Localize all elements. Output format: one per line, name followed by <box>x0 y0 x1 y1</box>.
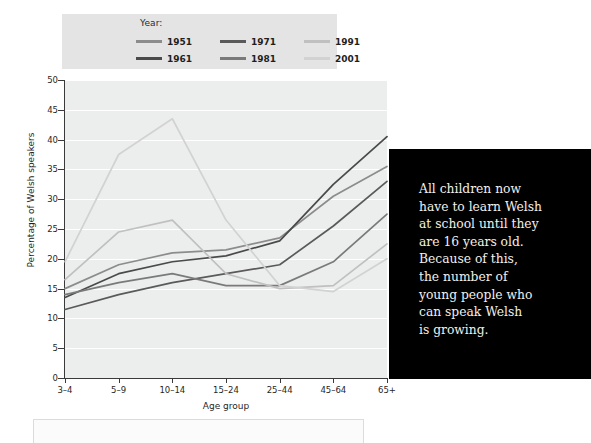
x-tick <box>65 378 66 383</box>
y-tick <box>58 378 65 379</box>
series-lines <box>65 80 387 378</box>
series-line-1951 <box>65 166 387 288</box>
y-tick-label: 35 <box>14 164 58 174</box>
callout-box: All children now have to learn Welsh at … <box>389 149 591 379</box>
x-tick-label: 45–64 <box>303 385 363 395</box>
y-tick <box>58 80 65 81</box>
series-line-2001 <box>65 119 387 292</box>
x-tick-label: 3–4 <box>35 385 95 395</box>
y-tick-label: 40 <box>14 135 58 145</box>
x-tick <box>226 378 227 383</box>
x-tick <box>280 378 281 383</box>
y-tick <box>58 140 65 141</box>
y-tick-label: 15 <box>14 284 58 294</box>
y-tick <box>58 199 65 200</box>
x-tick-label: 15–24 <box>196 385 256 395</box>
y-tick-label: 30 <box>14 194 58 204</box>
callout-text: All children now have to learn Welsh at … <box>419 181 579 339</box>
x-tick <box>333 378 334 383</box>
x-axis-title: Age group <box>0 401 452 411</box>
y-tick <box>58 229 65 230</box>
y-tick <box>58 289 65 290</box>
y-tick-label: 25 <box>14 224 58 234</box>
bottom-frame <box>33 419 364 443</box>
y-tick-label: 50 <box>14 75 58 85</box>
x-tick <box>172 378 173 383</box>
y-tick-label: 45 <box>14 105 58 115</box>
series-line-1991 <box>65 220 387 289</box>
x-tick <box>119 378 120 383</box>
x-tick-label: 10–14 <box>142 385 202 395</box>
y-tick <box>58 348 65 349</box>
x-tick-label: 5–9 <box>89 385 149 395</box>
y-tick <box>58 110 65 111</box>
y-tick-label: 5 <box>14 343 58 353</box>
y-tick <box>58 169 65 170</box>
y-tick <box>58 318 65 319</box>
x-tick <box>387 378 388 383</box>
y-tick-label: 10 <box>14 313 58 323</box>
y-tick-label: 0 <box>14 373 58 383</box>
y-tick-label: 20 <box>14 254 58 264</box>
x-tick-label: 65+ <box>357 385 417 395</box>
y-axis-title: Percentage of Welsh speakers <box>26 80 36 320</box>
series-line-1971 <box>65 181 387 309</box>
x-tick-label: 25–44 <box>250 385 310 395</box>
y-tick <box>58 259 65 260</box>
